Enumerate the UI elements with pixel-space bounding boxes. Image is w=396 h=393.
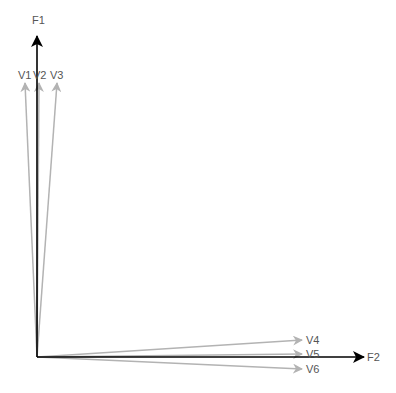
- vector-arrow-v6: [37, 357, 302, 369]
- vector-label-v4: V4: [306, 335, 319, 346]
- vector-label-v5: V5: [306, 349, 319, 360]
- vector-label-v3: V3: [50, 70, 63, 81]
- vector-label-v1: V1: [18, 70, 31, 81]
- axis-label-f2: F2: [367, 352, 380, 363]
- vector-label-v6: V6: [306, 364, 319, 375]
- vector-label-v2: V2: [33, 70, 46, 81]
- vector-arrow-v1: [25, 83, 37, 357]
- axis-label-f1: F1: [32, 15, 45, 26]
- vector-diagram: [0, 0, 396, 393]
- vector-arrow-v3: [37, 83, 57, 357]
